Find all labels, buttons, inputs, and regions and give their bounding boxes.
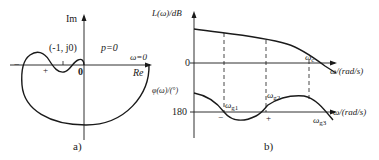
critical-point-label: (-1, j0) bbox=[49, 43, 77, 53]
omega-g3-label: ωg3 bbox=[313, 116, 326, 127]
omega-c-label: ωc bbox=[305, 53, 314, 64]
plus-marker: + bbox=[43, 66, 48, 75]
phase-180-label: 180 bbox=[172, 107, 187, 117]
freq-axis-top-label: ω/(rad/s) bbox=[330, 67, 363, 76]
freq-axis-top-arrow-icon bbox=[330, 61, 337, 66]
re-label: Re bbox=[133, 68, 144, 78]
nyquist-curve bbox=[22, 52, 149, 125]
phase-axis-label: φ(ω)/(°) bbox=[152, 87, 178, 95]
diagram-canvas bbox=[0, 0, 379, 160]
im-axis-arrow-icon bbox=[82, 14, 87, 21]
minus-marker: − bbox=[14, 60, 20, 70]
omega-g1-label: ωg1 bbox=[225, 101, 238, 112]
origin-label: 0 bbox=[78, 67, 83, 77]
phase-plus-marker: + bbox=[266, 114, 271, 123]
zero-db-label: 0 bbox=[185, 58, 190, 68]
magnitude-axis-arrow-icon bbox=[192, 11, 197, 18]
caption-a: a) bbox=[73, 141, 82, 152]
caption-b: b) bbox=[264, 141, 273, 152]
nyquist-plot bbox=[10, 14, 152, 140]
omega-g2-label: ωg2 bbox=[267, 91, 280, 102]
freq-axis-bottom-label: ω/(rad/s) bbox=[333, 108, 366, 117]
p-label: p=0 bbox=[101, 43, 118, 53]
omega-zero-label: ω=0 bbox=[130, 53, 147, 62]
im-label: Im bbox=[66, 14, 77, 24]
magnitude-curve bbox=[194, 29, 336, 73]
phase-minus-marker: − bbox=[218, 113, 223, 122]
magnitude-axis-label: L(ω)/dB bbox=[152, 9, 182, 18]
